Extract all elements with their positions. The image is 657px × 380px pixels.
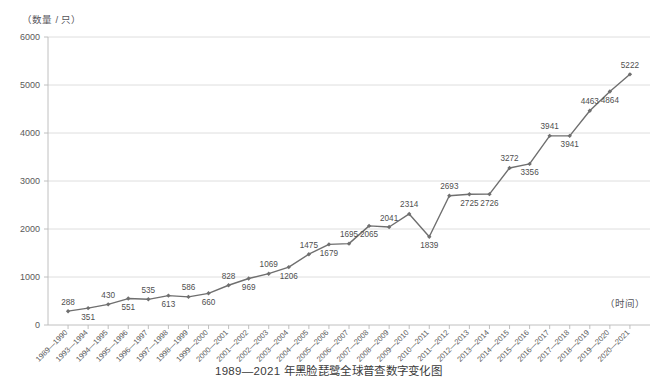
- data-series-group: [68, 74, 630, 311]
- data-point-marker: [447, 194, 451, 198]
- data-value-label: 3272: [500, 154, 519, 163]
- data-point-marker: [267, 271, 271, 275]
- data-value-label: 3941: [541, 122, 560, 131]
- data-value-label: 1839: [420, 241, 439, 250]
- data-value-label: 2726: [480, 199, 499, 208]
- chart-container: （数量 / 只） （时间） 0100020003000400050006000 …: [0, 0, 657, 380]
- data-value-label: 660: [202, 298, 216, 307]
- data-value-label: 1206: [280, 272, 299, 281]
- data-value-label: 3356: [520, 168, 539, 177]
- data-value-label: 4864: [601, 96, 620, 105]
- data-value-label: 2314: [400, 200, 419, 209]
- data-value-label: 430: [101, 291, 115, 300]
- data-value-label: 3941: [561, 140, 580, 149]
- data-value-label: 2041: [380, 214, 399, 223]
- data-point-marker: [226, 283, 230, 287]
- data-value-label: 4463: [581, 97, 600, 106]
- y-tick-labels-group: 0100020003000400050006000: [20, 32, 48, 330]
- data-point-marker: [66, 309, 70, 313]
- data-value-label: 1679: [320, 249, 339, 258]
- data-value-label: 351: [81, 313, 95, 322]
- y-tick-label: 3000: [20, 176, 40, 186]
- data-value-label: 2065: [360, 230, 379, 239]
- data-point-marker: [166, 293, 170, 297]
- data-value-label: 5222: [621, 61, 640, 70]
- y-tick-label: 4000: [20, 128, 40, 138]
- y-tick-label: 0: [35, 320, 40, 330]
- data-value-label: 2693: [440, 182, 459, 191]
- y-tick-label: 6000: [20, 32, 40, 42]
- data-point-marker: [206, 291, 210, 295]
- data-value-label: 586: [182, 283, 196, 292]
- data-value-label: 535: [141, 286, 155, 295]
- data-value-label: 828: [222, 272, 236, 281]
- data-point-marker: [186, 295, 190, 299]
- data-value-label: 1069: [260, 260, 279, 269]
- data-value-label: 1475: [300, 241, 319, 250]
- x-tick-labels-group: 1989—19901993—19941994—19951995—19961996…: [34, 328, 631, 364]
- data-point-marker: [327, 242, 331, 246]
- x-tick-marks-group: [68, 325, 630, 329]
- data-point-marker: [146, 297, 150, 301]
- data-value-label: 1695: [340, 230, 359, 239]
- data-value-label: 288: [61, 298, 75, 307]
- data-value-label: 2725: [460, 199, 479, 208]
- data-value-labels-group: 2883514305515356135866608289691069120614…: [61, 61, 639, 322]
- data-point-marker: [86, 306, 90, 310]
- data-value-label: 551: [121, 303, 135, 312]
- y-tick-label: 5000: [20, 80, 40, 90]
- y-tick-label: 2000: [20, 224, 40, 234]
- data-point-marker: [106, 302, 110, 306]
- series-line: [68, 74, 630, 311]
- data-point-marker: [467, 192, 471, 196]
- data-value-label: 969: [242, 283, 256, 292]
- data-point-marker: [126, 296, 130, 300]
- gridlines-group: [48, 37, 650, 277]
- data-value-label: 613: [162, 300, 176, 309]
- line-chart-plot: 0100020003000400050006000 28835143055153…: [0, 0, 657, 380]
- y-tick-label: 1000: [20, 272, 40, 282]
- chart-caption: 1989—2021 年黑脸琵鹭全球普查数字变化图: [0, 362, 657, 378]
